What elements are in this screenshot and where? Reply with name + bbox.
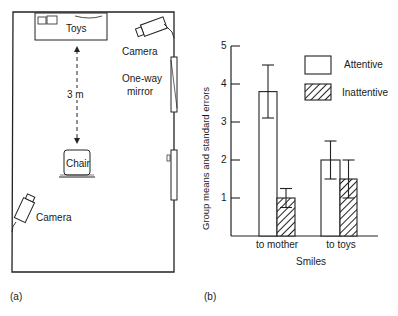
y-tick-label: 2 xyxy=(221,154,227,165)
x-axis-label: Smiles xyxy=(296,256,326,267)
chair-label: Chair xyxy=(66,158,91,169)
camera-top-label: Camera xyxy=(122,46,158,57)
mirror-label-line1: One-way xyxy=(122,73,162,84)
y-tick-label: 1 xyxy=(221,192,227,203)
panel-label-b: (b) xyxy=(204,291,216,302)
door-handle-icon xyxy=(167,155,170,161)
camera-bottom-label: Camera xyxy=(36,212,72,223)
y-tick-label: 4 xyxy=(221,78,227,89)
one-way-mirror xyxy=(171,57,177,112)
category-label-to-toys: to toys xyxy=(326,239,355,250)
y-tick-label: 5 xyxy=(221,40,227,51)
category-label-to-mother: to mother xyxy=(256,239,299,250)
panel-label-a: (a) xyxy=(10,291,22,302)
legend-label-attentive: Attentive xyxy=(344,59,383,70)
legend-label-inattentive: Inattentive xyxy=(342,87,389,98)
legend: Attentive Inattentive xyxy=(305,56,389,100)
camera-icon xyxy=(12,193,37,232)
toys-table: Toys xyxy=(35,13,107,40)
distance-label: 3 m xyxy=(67,89,84,100)
bar-chart: 1 2 3 4 5 Group means and standard error… xyxy=(200,40,389,267)
mirror-label-line2: mirror xyxy=(127,86,154,97)
room-diagram: Toys 3 m Chair Camera xyxy=(12,12,177,272)
legend-swatch-inattentive xyxy=(305,84,331,100)
arrow-down-icon xyxy=(74,138,80,144)
y-axis-label: Group means and standard errors xyxy=(200,87,211,230)
arrow-up-icon xyxy=(74,46,80,52)
camera-icon xyxy=(135,17,174,39)
distance-arrow: 3 m xyxy=(65,46,89,144)
legend-swatch-attentive xyxy=(305,56,331,74)
chair: Chair xyxy=(59,150,95,177)
y-tick-label: 3 xyxy=(221,116,227,127)
toys-label: Toys xyxy=(66,23,87,34)
door xyxy=(167,150,177,200)
